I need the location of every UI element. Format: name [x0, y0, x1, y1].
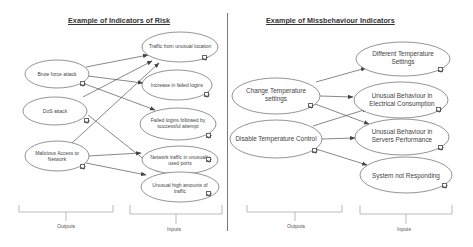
left-panel-title: Example of Indicators of Risk [68, 16, 170, 25]
left-inputs-label: Inputs [167, 226, 181, 232]
edge-brute-traffic [86, 55, 148, 67]
edge-brute-failedinc [88, 76, 143, 83]
checkbox-icon [438, 145, 443, 150]
checkbox-icon [206, 191, 211, 196]
label-failed-increase: Increase in failed logins [145, 79, 209, 91]
edge-change-elec [320, 96, 353, 97]
checkbox-icon [204, 92, 209, 97]
edge-change-difftemp [316, 68, 366, 82]
label-disable-temp: Disable Temperature Control [231, 133, 321, 145]
edge-malicious-hightraffic [86, 163, 146, 175]
label-change-temp: Change Temperature settings [243, 86, 309, 104]
label-high-traffic: Unusual high amounts of traffic [148, 180, 212, 196]
edge-disable-notresp [316, 149, 367, 165]
diagram-canvas [0, 0, 473, 247]
left-outputs-brace [19, 205, 113, 221]
checkbox-icon [312, 148, 317, 153]
edge-disable-elec [313, 109, 367, 126]
checkbox-icon [206, 133, 211, 138]
right-panel-title: Example of Missbehaviour Indicators [266, 16, 395, 25]
label-diff-temp: Different Temperature Settings [370, 49, 436, 67]
checkbox-icon [202, 55, 207, 60]
label-elec: Unusual Behaviour in Electrical Consumpt… [362, 91, 442, 109]
label-dos: DoS attack [25, 105, 85, 117]
label-malicious: Malicious Access to Network [30, 148, 84, 164]
label-not-responding: System not Responding [366, 170, 446, 182]
checkbox-icon [442, 183, 447, 188]
edge-malicious-ports [88, 153, 141, 156]
label-servers: Unusual Behaviour in Servers Performance [364, 127, 440, 145]
label-failed-success: Failed logins followed by successful att… [148, 115, 208, 131]
left-inputs-brace [130, 205, 222, 224]
left-outputs-label: Outputs [57, 223, 75, 229]
right-outputs-label: Outputs [287, 223, 305, 229]
checkbox-icon [308, 103, 313, 108]
checkbox-icon [84, 118, 89, 123]
right-edges [313, 68, 369, 165]
right-inputs-brace [360, 205, 452, 224]
checkbox-icon [436, 107, 441, 112]
right-outputs-brace [247, 205, 342, 221]
checkbox-icon [80, 164, 85, 169]
checkbox-icon [438, 67, 443, 72]
label-traffic-location: Traffic from unusual location [143, 40, 217, 52]
label-net-ports: Network traffic in unusually used ports [146, 152, 214, 168]
edge-disable-servers [322, 138, 355, 139]
braces [19, 205, 452, 224]
label-brute-force: Brute force attack [27, 68, 87, 80]
right-inputs-label: Inputs [397, 226, 411, 232]
checkbox-icon [80, 81, 85, 86]
checkbox-icon [206, 157, 211, 162]
